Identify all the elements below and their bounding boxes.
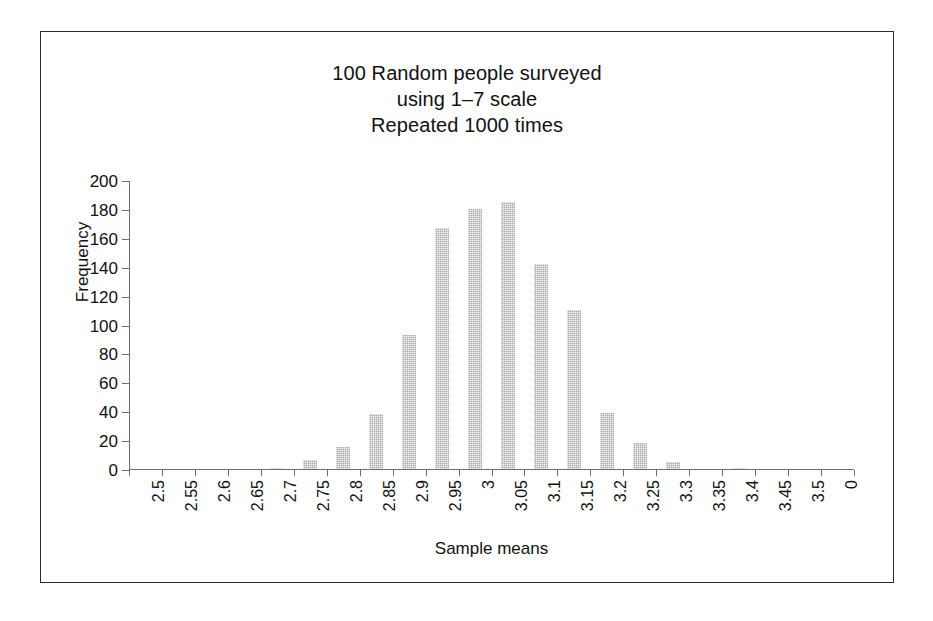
x-axis-title: Sample means xyxy=(129,540,854,557)
x-axis-tick xyxy=(689,470,690,476)
x-axis-tick-label: 3.15 xyxy=(580,480,596,511)
y-axis-tick-label: 40 xyxy=(99,404,118,421)
x-axis-tick-label: 2.65 xyxy=(250,480,266,511)
x-axis-tick-label: 3.05 xyxy=(514,480,530,511)
y-axis-tick xyxy=(122,268,129,269)
x-axis-tick xyxy=(492,470,493,476)
chart-title-line-1: 100 Random people surveyed xyxy=(41,60,893,86)
bar xyxy=(732,468,746,469)
x-axis-tick xyxy=(294,470,295,476)
x-axis-tick-label: 2.75 xyxy=(316,480,332,511)
x-axis-tick-label: 2.7 xyxy=(283,480,299,502)
bar xyxy=(435,228,449,469)
bar xyxy=(600,413,614,469)
x-axis-tick xyxy=(393,470,394,476)
x-axis-tick-label: 0 xyxy=(844,480,860,489)
x-axis-tick xyxy=(195,470,196,476)
x-axis-tick-label: 2.6 xyxy=(217,480,233,502)
x-axis-tick xyxy=(360,470,361,476)
chart-title: 100 Random people surveyed using 1–7 sca… xyxy=(41,60,893,138)
x-axis-tick-label: 3 xyxy=(481,480,497,489)
y-axis-tick xyxy=(122,239,129,240)
x-axis-tick xyxy=(854,470,855,476)
y-axis-tick-label: 60 xyxy=(99,375,118,392)
y-axis-tick-label: 180 xyxy=(90,201,118,218)
y-axis-tick-label: 100 xyxy=(90,317,118,334)
x-axis-tick-label: 3.2 xyxy=(613,480,629,502)
plot-area: 020406080100120140160180200 2.52.552.62.… xyxy=(129,181,854,470)
bar xyxy=(633,443,647,469)
y-axis-tick xyxy=(122,412,129,413)
x-axis-tick xyxy=(426,470,427,476)
x-axis-tick xyxy=(656,470,657,476)
figure-frame: 100 Random people surveyed using 1–7 sca… xyxy=(40,31,894,583)
bar xyxy=(567,310,581,469)
x-axis-tick-label: 2.5 xyxy=(151,480,167,502)
x-axis-tick xyxy=(755,470,756,476)
x-axis-tick-label: 3.45 xyxy=(778,480,794,511)
chart-title-line-3: Repeated 1000 times xyxy=(41,112,893,138)
bar xyxy=(666,462,680,469)
x-axis-tick xyxy=(524,470,525,476)
x-axis-tick xyxy=(459,470,460,476)
y-axis-title: Frequency xyxy=(74,222,91,302)
y-axis-tick xyxy=(122,383,129,384)
x-axis-tick xyxy=(557,470,558,476)
x-axis-tick xyxy=(623,470,624,476)
x-axis-tick xyxy=(722,470,723,476)
x-axis-tick xyxy=(261,470,262,476)
y-axis-tick-label: 20 xyxy=(99,433,118,450)
bar xyxy=(501,202,515,469)
x-axis-tick-label: 3.4 xyxy=(745,480,761,502)
x-axis-tick-label: 2.85 xyxy=(382,480,398,511)
y-axis-tick-label: 0 xyxy=(109,462,118,479)
x-axis-tick-label: 2.8 xyxy=(349,480,365,502)
x-axis-tick-label: 3.5 xyxy=(811,480,827,502)
y-axis-tick xyxy=(122,354,129,355)
bar xyxy=(270,468,284,469)
y-axis-tick xyxy=(122,470,129,471)
bar xyxy=(534,264,548,469)
x-axis-tick xyxy=(327,470,328,476)
x-axis-tick-label: 2.55 xyxy=(184,480,200,511)
x-axis-tick xyxy=(228,470,229,476)
y-axis-tick xyxy=(122,210,129,211)
y-axis-tick-label: 200 xyxy=(90,173,118,190)
x-axis-tick xyxy=(821,470,822,476)
bar xyxy=(402,335,416,469)
x-axis-tick-label: 2.95 xyxy=(448,480,464,511)
y-axis-tick-label: 80 xyxy=(99,346,118,363)
x-axis-tick xyxy=(129,470,130,476)
x-axis-tick-label: 3.1 xyxy=(547,480,563,502)
bar xyxy=(369,414,383,469)
x-axis-tick-label: 3.35 xyxy=(712,480,728,511)
x-axis-tick xyxy=(590,470,591,476)
x-axis-tick-label: 2.9 xyxy=(415,480,431,502)
x-axis-tick-label: 3.3 xyxy=(679,480,695,502)
y-axis-tick xyxy=(122,181,129,182)
y-axis-tick xyxy=(122,326,129,327)
bar xyxy=(468,209,482,469)
bar xyxy=(336,447,350,469)
x-axis-tick-label: 3.25 xyxy=(646,480,662,511)
chart-title-line-2: using 1–7 scale xyxy=(41,86,893,112)
y-axis-tick-label: 140 xyxy=(90,259,118,276)
y-axis-line xyxy=(129,181,130,470)
y-axis-tick-label: 120 xyxy=(90,288,118,305)
y-axis-tick xyxy=(122,297,129,298)
bar xyxy=(303,460,317,469)
y-axis-tick xyxy=(122,441,129,442)
y-axis-tick-label: 160 xyxy=(90,230,118,247)
x-axis-tick xyxy=(788,470,789,476)
x-axis-tick xyxy=(162,470,163,476)
